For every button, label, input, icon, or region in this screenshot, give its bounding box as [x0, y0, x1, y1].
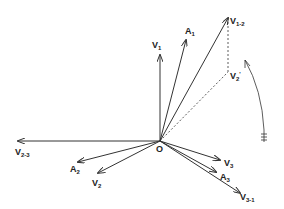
vector-a1 — [160, 40, 186, 141]
vector-v2 — [98, 141, 160, 173]
label-a2: A2 — [70, 164, 81, 175]
label-a1: A1 — [185, 26, 196, 37]
label-v3-1: V3-1 — [240, 192, 255, 203]
origin-label: O — [156, 144, 163, 154]
rotation-arrow-icon — [245, 60, 267, 142]
label-v2-3: V2-3 — [15, 147, 30, 158]
vectors — [18, 18, 240, 193]
label-v1: V1 — [152, 40, 162, 51]
vector-labels: V1A1V1-2V2-3A2V2V3A3V3-1V2' — [15, 16, 255, 203]
label-v2: V2 — [92, 178, 102, 189]
vector-a2 — [78, 141, 160, 162]
dashed-v2-prime — [160, 72, 228, 141]
label-a3: A3 — [220, 172, 231, 183]
label-v1-2: V1-2 — [230, 16, 245, 27]
vector-diagram: V1A1V1-2V2-3A2V2V3A3V3-1V2' O — [0, 0, 284, 209]
label-v2prime: V2' — [230, 71, 241, 82]
label-v3: V3 — [224, 158, 234, 169]
